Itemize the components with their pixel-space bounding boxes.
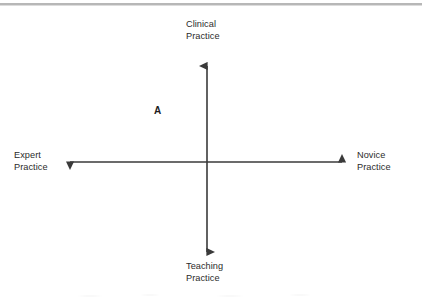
- figure-canvas: Clinical Practice Teaching Practice Expe…: [0, 0, 422, 304]
- axis-label-teaching-practice: Teaching Practice: [186, 261, 223, 284]
- axis-label-clinical-practice-line1: Clinical: [186, 19, 220, 31]
- scan-artifact-band: [0, 292, 422, 300]
- axis-label-teaching-practice-line2: Practice: [186, 273, 223, 285]
- axis-label-expert-practice-line2: Practice: [14, 162, 48, 174]
- axis-label-novice-practice-line2: Practice: [357, 162, 391, 174]
- axis-label-novice-practice-line1: Novice: [357, 150, 391, 162]
- axis-label-expert-practice-line1: Expert: [14, 150, 48, 162]
- axis-label-clinical-practice-line2: Practice: [186, 31, 220, 43]
- axis-label-teaching-practice-line1: Teaching: [186, 261, 223, 273]
- axis-label-clinical-practice: Clinical Practice: [186, 19, 220, 42]
- axis-label-novice-practice: Novice Practice: [357, 150, 391, 173]
- quadrant-marker-a: A: [154, 105, 161, 117]
- axis-label-expert-practice: Expert Practice: [14, 150, 48, 173]
